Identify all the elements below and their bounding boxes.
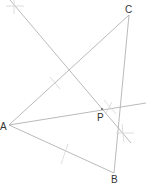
label-b: B xyxy=(111,174,118,183)
side-bc xyxy=(114,15,129,173)
label-p: P xyxy=(97,112,104,123)
geometry-diagram: A C B P xyxy=(0,0,147,183)
label-a: A xyxy=(0,121,7,132)
side-ab xyxy=(9,125,114,173)
point-p-dot xyxy=(101,108,103,110)
label-c: C xyxy=(125,4,132,15)
construction-arcs xyxy=(6,0,134,164)
